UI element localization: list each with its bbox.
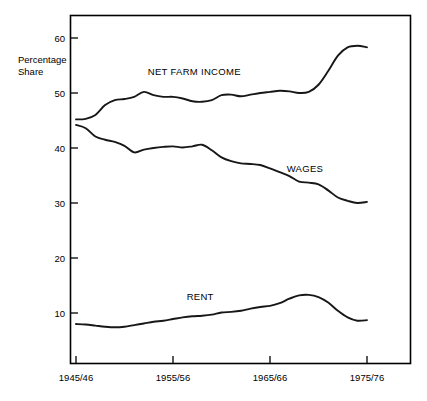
y-axis-ticks (71, 38, 79, 313)
series-paths (76, 46, 367, 328)
series-line-rent (76, 295, 367, 328)
y-tick-label-30: 30 (54, 198, 65, 209)
x-tick-label-1975: 1975/76 (350, 372, 384, 383)
x-tick-label-1955: 1955/56 (156, 372, 190, 383)
series-labels: NET FARM INCOMEWAGESRENT (148, 66, 323, 302)
series-line-wages (76, 125, 367, 203)
y-tick-label-60: 60 (54, 33, 65, 44)
y-tick-label-50: 50 (54, 88, 65, 99)
y-tick-label-10: 10 (54, 308, 65, 319)
y-tick-label-20: 20 (54, 253, 65, 264)
chart-svg: 60 50 40 30 20 10 Percentage Share 1945/… (0, 0, 427, 401)
x-tick-label-1945: 1945/46 (59, 372, 93, 383)
y-axis-title-line1: Percentage (18, 54, 67, 65)
chart-container: 60 50 40 30 20 10 Percentage Share 1945/… (0, 0, 427, 401)
y-axis-title: Percentage Share (18, 54, 67, 77)
x-axis-ticks (76, 356, 367, 364)
y-tick-label-40: 40 (54, 143, 65, 154)
series-label-wages: WAGES (287, 163, 324, 174)
series-label-rent: RENT (187, 291, 214, 302)
y-axis-title-line2: Share (18, 66, 43, 77)
y-axis-tick-labels: 60 50 40 30 20 10 (54, 33, 65, 319)
series-label-net-farm-income: NET FARM INCOME (148, 66, 241, 77)
x-axis-tick-labels: 1945/46 1955/56 1965/66 1975/76 (59, 372, 384, 383)
x-tick-label-1965: 1965/66 (253, 372, 287, 383)
series-line-net-farm-income (76, 46, 367, 120)
